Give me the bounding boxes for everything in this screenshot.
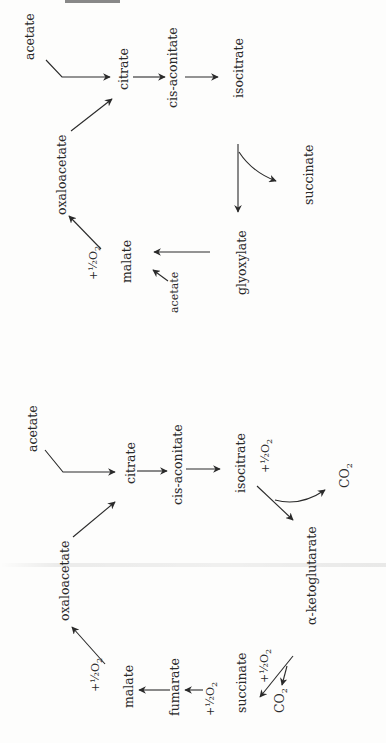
node-cis-aconitate-top: cis-aconitate <box>165 27 180 108</box>
svg-text:+½O2: +½O2 <box>258 649 273 683</box>
node-isocitrate-top: isocitrate <box>231 38 246 98</box>
oxygen-label-isocitrate: +½O2 <box>259 439 274 473</box>
glyoxylate-cycle: acetate citrate cis-aconitate isocitrate… <box>22 13 316 313</box>
arrow-acetate-to-citrate <box>46 60 110 77</box>
node-alpha-ketoglutarate: α-ketoglutarate <box>304 526 319 625</box>
arrow-malate-to-oxaloacetate <box>69 216 101 249</box>
node-oxaloacetate-top: oxaloacetate <box>54 135 69 215</box>
node-malate-bottom: malate <box>121 665 136 708</box>
pathway-diagram: acetate citrate cis-aconitate isocitrate… <box>0 0 386 743</box>
scan-artifact <box>0 563 386 567</box>
svg-text:+½O2: +½O2 <box>89 658 104 692</box>
oxygen-label-malate: +½O2 <box>89 658 104 692</box>
node-cis-aconitate-bottom: cis-aconitate <box>170 424 185 505</box>
arrow-oxaloacetate-to-citrate <box>71 99 112 131</box>
node-fumarate: fumarate <box>167 658 182 716</box>
svg-text:CO2: CO2 <box>337 463 354 488</box>
tca-cycle: acetate citrate cis-aconitate isocitrate… <box>25 405 354 716</box>
node-acetate-top: acetate <box>22 13 37 60</box>
oxygen-label-akg: +½O2 <box>258 649 273 683</box>
oxygen-label-top: +½O2 <box>87 246 102 280</box>
svg-text:CO2: CO2 <box>272 688 289 713</box>
node-citrate-top: citrate <box>116 48 131 90</box>
arrow-isocitrate-to-akg <box>257 486 293 520</box>
node-acetate-bottom: acetate <box>25 405 40 452</box>
node-succinate-bottom: succinate <box>234 653 249 713</box>
svg-text:+½O2: +½O2 <box>204 682 219 716</box>
arrow-isocitrate-co2-release <box>275 490 325 502</box>
co2-label-akg: CO2 <box>272 688 289 713</box>
arrow-isocitrate-to-succinate <box>239 152 276 181</box>
node-citrate-bottom: citrate <box>123 442 138 484</box>
node-malate-top: malate <box>119 240 134 283</box>
arrow-acetate-to-malate <box>153 270 168 281</box>
arrow-oxaloacetate-to-citrate-bottom <box>73 502 115 537</box>
arrow-malate-to-oxaloacetate-bottom <box>72 627 105 664</box>
arrow-acetate-to-citrate-bottom <box>45 450 115 472</box>
node-acetate-to-malate: acetate <box>168 272 181 313</box>
node-succinate-top: succinate <box>301 145 316 205</box>
node-glyoxylate: glyoxylate <box>234 230 249 295</box>
node-isocitrate-bottom: isocitrate <box>233 433 248 493</box>
svg-text:+½O2: +½O2 <box>259 439 274 473</box>
diagram-canvas: acetate citrate cis-aconitate isocitrate… <box>0 0 386 743</box>
co2-label-isocitrate: CO2 <box>337 463 354 488</box>
oxygen-label-succinate: +½O2 <box>204 682 219 716</box>
cropped-header-text <box>65 0 120 3</box>
svg-text:+½O2: +½O2 <box>87 246 102 280</box>
node-oxaloacetate-bottom: oxaloacetate <box>57 541 72 621</box>
